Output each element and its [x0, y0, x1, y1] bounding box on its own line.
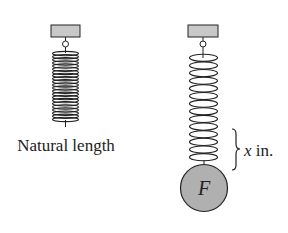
right-spring: F	[181, 25, 228, 212]
left-mount	[51, 25, 80, 37]
extension-label: x in.	[243, 141, 273, 160]
left-spring	[51, 25, 80, 127]
right-coils	[190, 54, 218, 161]
extension-brace	[232, 129, 240, 170]
right-hook-ring	[200, 41, 206, 47]
left-coils	[53, 51, 79, 121]
right-mount	[188, 25, 218, 37]
natural-length-label: Natural length	[17, 136, 115, 155]
left-hook-ring	[63, 41, 69, 47]
weight-label: F	[197, 177, 211, 199]
spring-diagram: Natural length F x in.	[0, 0, 288, 233]
